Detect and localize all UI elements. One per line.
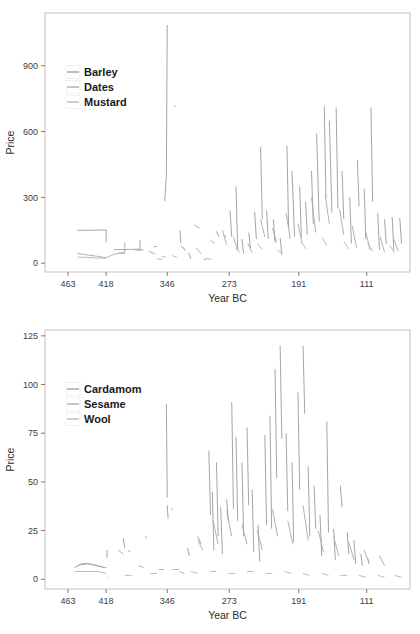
series-segment [292, 171, 295, 237]
series-segment [378, 213, 380, 250]
series-segment [265, 435, 267, 525]
series-segment [261, 219, 265, 237]
series-segment [180, 230, 181, 243]
x-axis-tick-label: 346 [160, 596, 175, 606]
chart-bottom-svg: 0255075100125463418346273191111Year BCPr… [0, 317, 420, 634]
legend-label-mustard: Mustard [84, 96, 127, 108]
legend-label-cardamom: Cardamom [84, 383, 142, 395]
series-segment [303, 573, 310, 575]
series-segment [257, 531, 262, 550]
chart-panel-top: 0300600900463418346273191111Year BCPrice… [0, 0, 420, 317]
x-axis-tick-label: 111 [360, 596, 374, 606]
x-axis-tick-label: 191 [291, 596, 306, 606]
series-segment [342, 171, 344, 219]
series-segment [174, 106, 176, 107]
series-segment [267, 211, 269, 240]
series-segment [400, 218, 402, 243]
series-segment [317, 134, 320, 222]
series-segment [385, 219, 387, 243]
series-segment [287, 146, 289, 228]
series-segment [352, 226, 356, 248]
series-segment [181, 246, 185, 250]
series-wool [75, 570, 402, 578]
series-segment [329, 121, 332, 213]
series-segment [242, 525, 247, 544]
x-axis-tick-label: 191 [291, 279, 306, 289]
series-segment [222, 230, 226, 244]
x-axis-tick-label: 111 [360, 279, 374, 289]
series-cardamom [75, 346, 370, 578]
series-segment [211, 240, 215, 243]
x-axis-tick-label: 463 [60, 596, 75, 606]
series-segment [179, 571, 184, 573]
series-segment [394, 239, 398, 251]
series-segment [284, 571, 291, 573]
x-axis-tick-label: 463 [60, 279, 75, 289]
chart-legend: CardamomSesameWool [66, 383, 142, 426]
series-segment [334, 529, 336, 560]
series-segment [322, 573, 329, 575]
series-segment [303, 346, 305, 414]
x-axis-tick-label: 346 [160, 279, 175, 289]
series-segment [216, 231, 219, 236]
series-segment [336, 107, 338, 208]
series-segment [371, 107, 373, 201]
y-axis-title: Price [4, 130, 16, 154]
legend-label-sesame: Sesame [84, 398, 126, 410]
series-segment [392, 217, 394, 250]
series-segment [188, 253, 191, 259]
series-segment [350, 197, 352, 243]
series-segment [212, 492, 214, 550]
series-segment [145, 536, 147, 538]
series-segment [344, 241, 349, 249]
series-segment [359, 575, 366, 577]
series-segment [354, 540, 356, 563]
y-axis-tick-label: 125 [23, 331, 38, 341]
series-segment [327, 422, 329, 533]
series-segment [216, 462, 218, 536]
y-axis-tick-label: 900 [23, 61, 38, 71]
series-segment [247, 427, 249, 505]
series-segment [349, 542, 354, 560]
series-segment [149, 251, 156, 254]
y-axis-title: Price [4, 447, 16, 471]
series-segment [347, 533, 349, 554]
series-segment [242, 239, 244, 253]
series-segment [275, 369, 277, 478]
series-segment [379, 556, 384, 566]
series-segment [361, 554, 363, 566]
series-segment [320, 515, 322, 556]
x-axis-tick-label: 273 [222, 596, 237, 606]
series-segment [300, 186, 302, 236]
series-segment [221, 507, 223, 554]
series-segment [77, 230, 106, 242]
series-segment [292, 462, 294, 542]
x-axis-title: Year BC [208, 609, 247, 621]
y-axis-tick-label: 600 [23, 127, 38, 137]
y-axis-tick-label: 100 [23, 380, 38, 390]
series-segment [209, 451, 211, 515]
series-segment [230, 211, 232, 237]
y-axis-tick-label: 25 [28, 526, 38, 536]
series-segment [357, 160, 359, 206]
y-axis-tick-label: 300 [23, 193, 38, 203]
series-segment [167, 505, 168, 519]
series-segment [395, 575, 402, 577]
series-segment [196, 248, 201, 254]
series-segment [236, 437, 238, 521]
series-segment [232, 402, 234, 509]
series-segment [272, 509, 277, 536]
y-axis-tick-label: 75 [28, 428, 38, 438]
chart-legend: BarleyDatesMustard [66, 66, 127, 109]
series-segment [288, 521, 293, 544]
series-segment [118, 550, 123, 554]
series-segment [340, 486, 342, 507]
x-axis-tick-label: 418 [99, 279, 114, 289]
series-segment [191, 571, 198, 573]
series-segment [314, 486, 316, 529]
x-axis-tick-label: 273 [222, 279, 237, 289]
figure-container: 0300600900463418346273191111Year BCPrice… [0, 0, 420, 634]
y-axis-tick-label: 0 [33, 574, 38, 584]
series-segment [303, 505, 308, 540]
series-segment [114, 240, 140, 249]
